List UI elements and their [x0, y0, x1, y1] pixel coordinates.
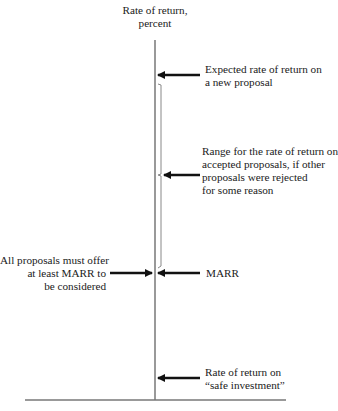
label-range: Range for the rate of return on accepted… [202, 145, 338, 197]
label-all-proposals: All proposals must offer at least MARR t… [0, 254, 106, 293]
label-expected: Expected rate of return on a new proposa… [205, 63, 322, 89]
label-all-proposals-line: be considered [0, 280, 106, 293]
label-all-proposals-line: at least MARR to [0, 267, 106, 280]
label-safe-line: Rate of return on [205, 366, 285, 379]
range-bracket [158, 84, 161, 268]
label-expected-line: Expected rate of return on [205, 63, 322, 76]
label-range-line: for some reason [202, 184, 338, 197]
label-range-line: Range for the rate of return on [202, 145, 338, 158]
label-safe: Rate of return on “safe investment” [205, 366, 285, 392]
axis-title-line1: Rate of return, [105, 4, 205, 17]
label-range-line: accepted proposals, if other [202, 158, 338, 171]
label-marr: MARR [206, 267, 239, 280]
label-safe-line: “safe investment” [205, 379, 285, 392]
axis-title-line2: percent [105, 17, 205, 30]
label-range-line: proposals were rejected [202, 171, 338, 184]
label-expected-line: a new proposal [205, 76, 322, 89]
axis-title: Rate of return, percent [105, 4, 205, 30]
label-all-proposals-line: All proposals must offer [0, 254, 106, 267]
